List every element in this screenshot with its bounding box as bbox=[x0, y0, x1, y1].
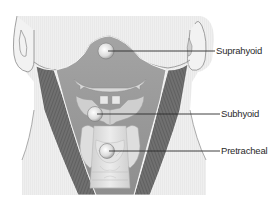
label-subhyoid: Subhyoid bbox=[221, 109, 259, 119]
label-pretracheal: Pretracheal bbox=[221, 146, 267, 156]
neck-anatomy-diagram bbox=[0, 0, 277, 208]
label-suprahyoid: Suprahyoid bbox=[216, 46, 262, 56]
